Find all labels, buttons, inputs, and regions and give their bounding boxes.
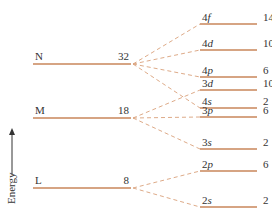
subshell-capacity: 2 (263, 136, 269, 148)
subshell-label: 4f (202, 11, 213, 23)
subshell-capacity: 6 (263, 158, 269, 170)
subshell-capacity: 10 (263, 37, 272, 49)
subshell-label: 2p (202, 158, 214, 170)
split-connector (133, 171, 200, 188)
subshell-label: 4p (202, 64, 214, 76)
subshell-capacity: 6 (263, 104, 269, 116)
split-connector (133, 64, 200, 108)
shell-capacity: 18 (118, 104, 130, 116)
split-connector (133, 118, 200, 149)
subshell-label: 3d (202, 77, 214, 89)
split-connector (133, 24, 200, 64)
shell-capacity: 32 (118, 50, 129, 62)
subshell-label: 3s (202, 136, 212, 148)
subshell-label: 2s (202, 194, 212, 206)
subshell-label: 3p (202, 104, 214, 116)
split-connector (133, 188, 200, 207)
split-connector (133, 117, 200, 118)
subshell-label: 4d (202, 37, 214, 49)
shell-label: N (35, 50, 43, 62)
shell-capacity: 8 (124, 174, 130, 186)
shell-label: M (35, 104, 45, 116)
split-connector (133, 90, 200, 118)
energy-level-diagram: N32M18L84f144d104p63d104s23p63s22p62s2En… (0, 0, 272, 208)
energy-axis-label: Energy (5, 172, 17, 204)
shell-label: L (35, 174, 42, 186)
subshell-capacity: 10 (263, 77, 272, 89)
split-connector (133, 64, 200, 77)
split-connector (133, 50, 200, 64)
subshell-capacity: 2 (263, 194, 269, 206)
subshell-capacity: 6 (263, 64, 269, 76)
subshell-capacity: 14 (263, 11, 272, 23)
energy-arrow-head-icon (9, 128, 15, 135)
